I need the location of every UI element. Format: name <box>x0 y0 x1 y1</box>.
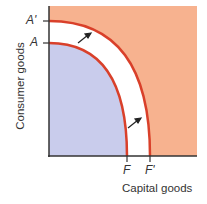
x-tick-f: F <box>123 163 130 177</box>
x-tick-f-prime: F' <box>145 163 155 177</box>
x-axis-label: Capital goods <box>122 182 192 194</box>
ppf-diagram <box>0 0 207 204</box>
y-axis-label: Consumer goods <box>14 26 26 146</box>
y-tick-a: A <box>30 35 38 49</box>
y-tick-a-prime: A' <box>26 13 36 27</box>
